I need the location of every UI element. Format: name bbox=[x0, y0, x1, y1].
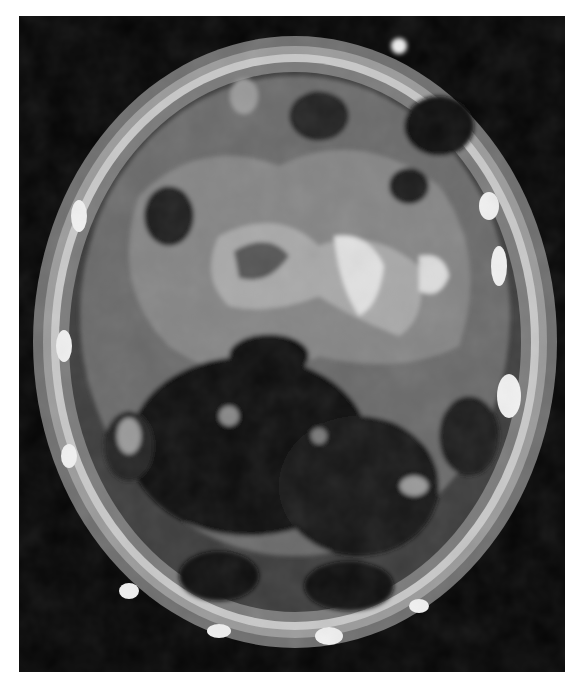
brain-scan-image bbox=[19, 16, 565, 672]
scan-image-panel bbox=[19, 16, 565, 672]
